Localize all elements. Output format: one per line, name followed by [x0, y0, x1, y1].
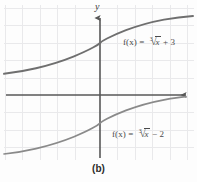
figure-container: y f(x) = 3√x + 3 f(x) = 3√x − 2 (b)	[0, 0, 197, 182]
equation-lower-prefix: f(x) =	[112, 129, 136, 139]
equation-upper-suffix: + 3	[161, 37, 175, 47]
equation-upper-prefix: f(x) =	[123, 37, 147, 47]
radical-index-upper: 3	[150, 36, 153, 42]
radical-index-lower: 3	[139, 128, 142, 134]
figure-caption: (b)	[0, 163, 197, 174]
radicand-upper: x	[155, 36, 160, 47]
y-axis-label: y	[95, 1, 99, 12]
equation-label-upper: f(x) = 3√x + 3	[123, 36, 175, 47]
radical-lower: 3√x	[136, 128, 150, 139]
plot-svg	[0, 0, 197, 182]
radical-upper: 3√x	[147, 36, 161, 47]
plot-background	[0, 0, 197, 182]
equation-label-lower: f(x) = 3√x − 2	[112, 128, 164, 139]
equation-lower-suffix: − 2	[150, 129, 164, 139]
radicand-lower: x	[144, 128, 149, 139]
